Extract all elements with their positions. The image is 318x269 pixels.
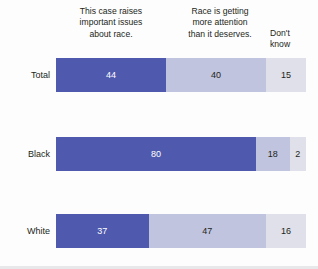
bar-value: 18 [268,149,278,159]
bar-segment-attention: 18 [256,137,290,171]
bar-segment-issues: 37 [56,214,149,248]
stacked-bar-total: 44 40 15 [56,58,306,92]
bar-segment-dont-know: 16 [266,214,306,248]
column-header-line: than it deserves. [172,29,268,40]
bar-segment-attention: 47 [149,214,267,248]
column-header-line: about race. [58,29,164,40]
row-label-black: Black [0,137,50,171]
stacked-bar-white: 37 47 16 [56,214,306,248]
column-header-line: Don't [270,28,308,39]
bar-value: 47 [202,226,212,236]
row-label-total: Total [0,58,50,92]
bar-value: 44 [106,70,116,80]
column-header-line: more attention [172,17,268,28]
column-header-line: This case raises [58,6,164,17]
bar-value: 15 [281,70,291,80]
row-label-white: White [0,214,50,248]
bar-segment-attention: 40 [166,58,266,92]
chart-column-headers: This case raises important issues about … [56,6,306,54]
column-header-line: Race is getting [172,6,268,17]
bar-value: 40 [211,70,221,80]
bar-segment-issues: 44 [56,58,166,92]
column-header-line: know [270,39,308,50]
column-header-dont-know: Don't know [270,28,308,51]
bar-segment-dont-know: 15 [266,58,306,92]
stacked-bar-chart: This case raises important issues about … [0,0,318,269]
column-header-issues: This case raises important issues about … [58,6,164,40]
bar-segment-dont-know: 2 [290,137,306,171]
bar-value: 80 [151,149,161,159]
bar-value: 16 [281,226,291,236]
chart-row: Total 44 40 15 [0,58,318,92]
bar-segment-issues: 80 [56,137,256,171]
chart-row: White 37 47 16 [0,214,318,248]
column-header-line: important issues [58,17,164,28]
stacked-bar-black: 80 18 2 [56,137,306,171]
column-header-attention: Race is getting more attention than it d… [172,6,268,40]
bar-value: 2 [295,149,300,159]
bar-value: 37 [97,226,107,236]
chart-row: Black 80 18 2 [0,137,318,171]
